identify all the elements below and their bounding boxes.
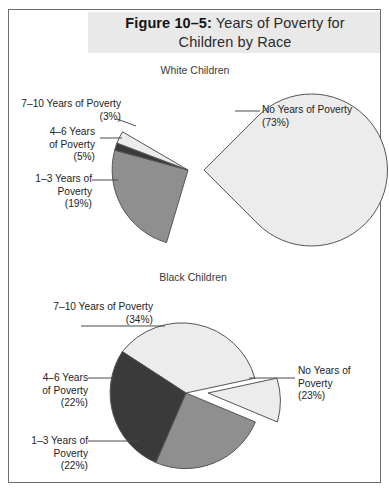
- figure-title-line1: Years of Poverty for: [212, 15, 345, 31]
- figure-title-line2: Children by Race: [179, 34, 292, 50]
- black-children-heading: Black Children: [118, 271, 268, 283]
- white-label-7-10-years: 7–10 Years of Poverty (3%): [8, 98, 121, 123]
- figure-root: Figure 10–5: Years of Poverty for Childr…: [0, 0, 389, 492]
- white-label-4-6-years: 4–6 Years of Poverty (5%): [8, 126, 95, 164]
- white-children-heading: White Children: [120, 64, 270, 76]
- white-label-no-years: No Years of Poverty (73%): [262, 104, 384, 129]
- figure-title: Figure 10–5: Years of Poverty for Childr…: [96, 14, 374, 52]
- black-label-4-6-years: 4–6 Years of Poverty (22%): [8, 372, 88, 410]
- white-label-1-3-years: 1–3 Years of Poverty (19%): [8, 173, 92, 211]
- black-label-no-years: No Years of Poverty (23%): [298, 365, 376, 403]
- black-label-7-10-years: 7–10 Years of Poverty (34%): [8, 301, 153, 326]
- black-label-1-3-years: 1–3 Years of Poverty (22%): [8, 435, 88, 473]
- figure-number: Figure 10–5:: [125, 15, 212, 31]
